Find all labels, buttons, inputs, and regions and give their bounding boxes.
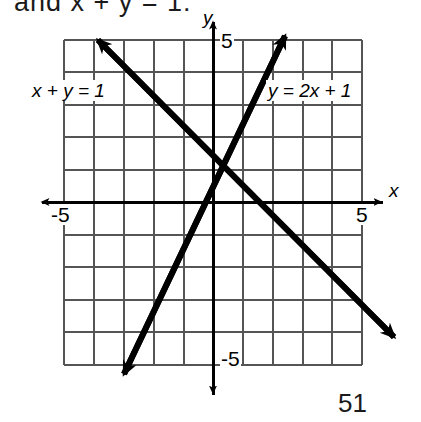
graph-svg (0, 0, 421, 400)
y-axis-tick-positive-5: 5 (220, 30, 234, 51)
equation-label-y-equals-2x-plus-1: y = 2x + 1 (266, 80, 353, 101)
x-axis-label: x (389, 181, 399, 200)
y-axis-label: y (203, 8, 213, 27)
x-axis-tick-negative-5: -5 (50, 204, 71, 225)
page-number: 51 (338, 390, 367, 416)
page-canvas: and x + y = 1: (0, 0, 421, 422)
y-axis-tick-negative-5: -5 (220, 348, 241, 369)
coordinate-graph-figure (0, 0, 421, 400)
x-axis-tick-positive-5: 5 (355, 204, 369, 225)
equation-label-x-plus-y: x + y = 1 (30, 80, 107, 101)
